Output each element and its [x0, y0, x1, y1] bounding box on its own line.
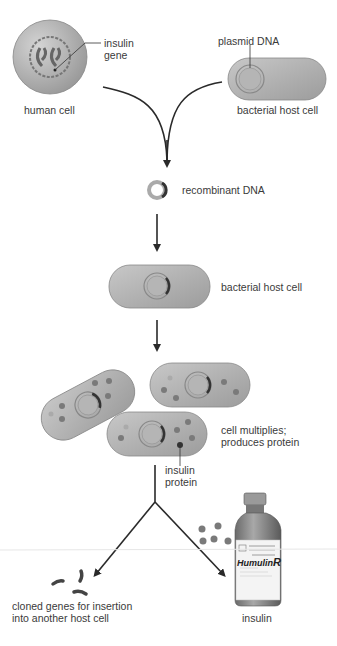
label-insulin-protein: insulin protein — [165, 464, 197, 488]
label-insulin-gene: insulin gene — [104, 37, 134, 61]
label-bacterial-host-cell-mid: bacterial host cell — [221, 281, 302, 293]
human-cell — [13, 20, 101, 94]
bacterial-host-cell-mid — [109, 265, 210, 308]
label-insulin: insulin — [242, 612, 272, 624]
label-human-cell: human cell — [24, 104, 75, 116]
label-recombinant-dna: recombinant DNA — [182, 184, 265, 196]
genetic-engineering-diagram: HumulinR — [0, 0, 337, 646]
label-plasmid-dna: plasmid DNA — [218, 35, 279, 47]
label-bacterial-host-cell-top: bacterial host cell — [237, 104, 318, 116]
cloned-genes — [53, 571, 86, 594]
vial-brand: HumulinR — [237, 556, 281, 568]
bacterial-cell-lower — [107, 412, 207, 466]
label-cloned-genes: cloned genes for insertion into another … — [12, 600, 132, 624]
bacterial-host-cell-top — [228, 45, 326, 100]
bacterial-cell-upper-right — [150, 363, 250, 407]
label-cell-multiplies: cell multiplies; produces protein — [221, 424, 299, 448]
recombinant-dna-ring — [149, 182, 166, 198]
insulin-protein-dots — [199, 523, 232, 545]
